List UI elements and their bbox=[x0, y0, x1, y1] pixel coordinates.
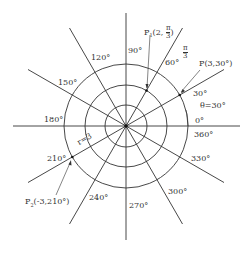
label-150deg: 150° bbox=[58, 79, 77, 87]
label-300deg: 300° bbox=[168, 188, 187, 196]
p2-rest: (-3,210°) bbox=[34, 197, 70, 206]
label-30deg: 30° bbox=[193, 90, 207, 98]
label-p1: P1(2, π3) bbox=[144, 25, 174, 40]
pi-den: 3 bbox=[183, 53, 188, 60]
label-90deg: 90° bbox=[128, 47, 142, 55]
pi-over-3-fraction: π3 bbox=[183, 45, 188, 60]
center-point bbox=[124, 124, 128, 128]
leader-p2 bbox=[56, 163, 70, 195]
polar-grid bbox=[0, 0, 250, 254]
label-240deg: 240° bbox=[89, 194, 108, 202]
label-theta: θ=30° bbox=[200, 102, 226, 110]
label-360deg: 360° bbox=[194, 131, 213, 139]
leader-p1 bbox=[147, 35, 150, 88]
label-pi-over-3: π3 bbox=[183, 45, 188, 60]
label-270deg: 270° bbox=[129, 202, 148, 210]
p1-open: (2, bbox=[153, 28, 166, 37]
theta-arc bbox=[186, 110, 188, 126]
label-p: P(3,30°) bbox=[199, 60, 232, 68]
label-210deg: 210° bbox=[47, 155, 66, 163]
point-p1 bbox=[145, 89, 148, 92]
p1-close: ) bbox=[170, 28, 173, 37]
point-p2 bbox=[71, 156, 74, 159]
label-0deg: 0° bbox=[195, 117, 204, 125]
label-p2: P2(-3,210°) bbox=[25, 198, 69, 208]
label-180deg: 180° bbox=[44, 116, 63, 124]
label-60deg: 60° bbox=[165, 59, 179, 67]
point-p bbox=[178, 94, 181, 97]
label-330deg: 330° bbox=[191, 155, 210, 163]
label-120deg: 120° bbox=[91, 54, 110, 62]
